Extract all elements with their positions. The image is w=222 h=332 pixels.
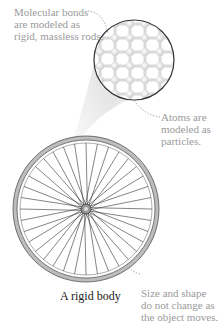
wheel-spoke (89, 212, 119, 267)
shape-annotation: Size and shape do not change as the obje… (141, 287, 218, 323)
wheel-spoke (35, 167, 82, 208)
wheel-spoke (75, 213, 87, 274)
wheel-spoke (85, 144, 97, 205)
atoms-leader (134, 100, 160, 117)
rigid-body-diagram (0, 0, 222, 332)
wheel-spoke (90, 198, 151, 210)
wheel-spoke (88, 212, 97, 274)
wheel-spoke (90, 210, 137, 251)
wheel-spoke (53, 213, 85, 266)
bicycle-wheel (13, 136, 159, 282)
figure-caption: A rigid body (60, 289, 121, 304)
wheel-spoke (24, 186, 82, 209)
wheel-spoke (53, 152, 83, 207)
wheel-spoke (75, 144, 84, 206)
wheel-spoke (20, 209, 82, 210)
wheel-spoke (87, 152, 119, 205)
atoms-annotation: Atoms are modeled as particles. (161, 111, 211, 147)
bonds-annotation: Molecular bonds are modeled as rigid, ma… (14, 6, 103, 42)
wheel-spoke (90, 209, 148, 232)
